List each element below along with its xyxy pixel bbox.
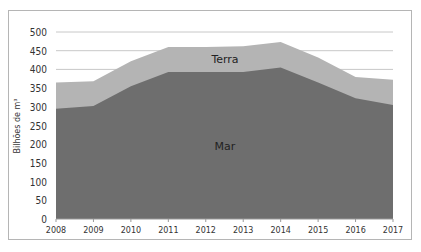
y-tick-label: 0 — [41, 214, 47, 225]
y-tick-label: 450 — [30, 46, 47, 57]
y-tick-label: 200 — [30, 139, 47, 150]
x-tick-label: 2009 — [83, 226, 103, 235]
x-axis-ticks: 2008200920102011201220132014201520162017 — [46, 219, 403, 235]
y-tick-label: 400 — [30, 64, 47, 75]
x-tick-label: 2010 — [121, 226, 141, 235]
y-tick-label: 350 — [30, 83, 47, 94]
x-tick-label: 2012 — [196, 226, 216, 235]
x-tick-label: 2017 — [383, 226, 403, 235]
y-tick-label: 500 — [30, 27, 47, 38]
stacked-area-chart: 050100150200250300350400450500 200820092… — [0, 0, 421, 252]
x-tick-label: 2013 — [233, 226, 253, 235]
x-tick-label: 2008 — [46, 226, 66, 235]
y-axis-ticks: 050100150200250300350400450500 — [30, 27, 47, 225]
y-tick-label: 250 — [30, 121, 47, 132]
y-tick-label: 300 — [30, 102, 47, 113]
y-tick-label: 150 — [30, 158, 47, 169]
y-tick-label: 50 — [36, 195, 48, 206]
y-tick-label: 100 — [30, 177, 47, 188]
mar-label: Mar — [215, 140, 236, 153]
x-tick-label: 2016 — [345, 226, 365, 235]
x-tick-label: 2015 — [308, 226, 328, 235]
x-tick-label: 2014 — [270, 226, 290, 235]
terra-label: Terra — [210, 53, 238, 66]
y-axis-label: Bilhões de m³ — [13, 98, 22, 153]
x-tick-label: 2011 — [158, 226, 178, 235]
